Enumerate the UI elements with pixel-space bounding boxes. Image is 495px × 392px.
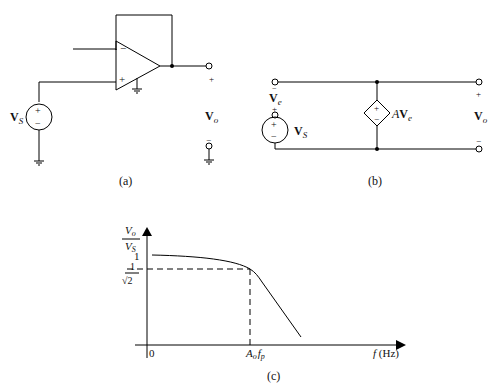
y-label-numerator: Vo — [125, 224, 136, 238]
output-ground-icon — [204, 149, 214, 164]
opamp-plus-label: + — [119, 73, 125, 85]
feedback-wire — [116, 15, 172, 66]
caption-b: (b) — [368, 174, 382, 188]
dep-minus: − — [374, 114, 379, 124]
source-voltage-label: VS — [10, 110, 24, 126]
dep-plus: + — [374, 103, 379, 113]
circuit-figures: − + + Vo − + − VS — [0, 0, 495, 392]
source-ground-icon — [34, 130, 44, 165]
response-curve — [152, 255, 301, 337]
x-tick-aofp: Aofp — [245, 347, 265, 361]
x-tick-0: 0 — [149, 347, 155, 359]
dep-source-label: AVe — [391, 107, 412, 123]
source-plus-sign: + — [35, 105, 41, 116]
y-axis-arrow-icon — [142, 227, 152, 236]
source-minus-sign: − — [35, 118, 41, 129]
plus-input-wire — [39, 82, 116, 102]
y-tick-inv-sqrt2-den: √2 — [122, 275, 133, 286]
output-plus-sign: + — [209, 74, 214, 84]
output-terminal-minus-b — [476, 146, 482, 152]
output-terminal-minus — [206, 143, 212, 149]
figure-b: + − Ve + + − VS − + − AVe Vo (b) — [262, 79, 488, 188]
output-terminal-plus — [206, 63, 212, 69]
source-b-label: VS — [294, 124, 308, 140]
junction-dot — [170, 64, 174, 68]
figure-c-chart: Vo VS 1 1 √2 0 Aofp f (Hz) (c) — [122, 224, 406, 383]
output-plus-b: + — [476, 89, 481, 99]
source-b-plus: + — [271, 119, 277, 130]
y-tick-inv-sqrt2-num: 1 — [130, 261, 135, 272]
output-voltage-b-label: Vo — [474, 109, 488, 125]
caption-a: (a) — [119, 174, 132, 188]
output-voltage-label: Vo — [205, 109, 219, 125]
caption-c: (c) — [267, 369, 280, 383]
opamp-minus-label: − — [120, 42, 126, 54]
source-b-minus: − — [271, 131, 277, 142]
output-minus-b: − — [476, 136, 481, 146]
figure-a: − + + Vo − + − VS — [10, 15, 219, 188]
output-terminal-plus-b — [476, 79, 482, 85]
x-axis-label: f (Hz) — [373, 347, 399, 360]
